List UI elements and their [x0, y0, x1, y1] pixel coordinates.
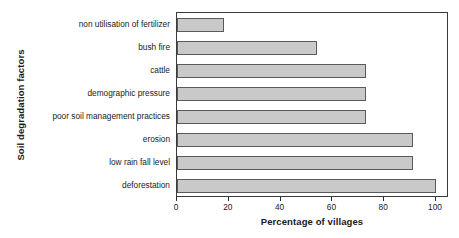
category-label: demographic pressure — [20, 88, 170, 98]
category-label: bush fire — [20, 42, 170, 52]
plot-area — [176, 12, 448, 197]
category-label: non utilisation of fertilizer — [20, 19, 170, 29]
x-axis-tick — [331, 197, 332, 201]
bar — [177, 133, 413, 147]
x-axis-tick — [435, 197, 436, 201]
category-label: deforestation — [20, 180, 170, 190]
category-label: low rain fall level — [20, 157, 170, 167]
bar — [177, 110, 366, 124]
category-label: poor soil management practices — [20, 111, 170, 121]
x-axis-tick — [280, 197, 281, 201]
bar — [177, 179, 436, 193]
x-axis-tick-label: 80 — [363, 202, 403, 212]
x-axis-tick-label: 0 — [156, 202, 196, 212]
x-axis-tick — [228, 197, 229, 201]
x-axis-title: Percentage of villages — [176, 216, 448, 227]
x-axis-tick-label: 60 — [311, 202, 351, 212]
bar — [177, 18, 224, 32]
x-axis-tick-label: 40 — [260, 202, 300, 212]
x-axis-tick-label: 100 — [415, 202, 455, 212]
category-label-group: non utilisation of fertilizerbush fireca… — [20, 12, 170, 197]
bar-chart: Soil degradation factors non utilisation… — [0, 0, 459, 238]
x-axis-tick — [383, 197, 384, 201]
category-label: cattle — [20, 65, 170, 75]
bar — [177, 87, 366, 101]
bar — [177, 64, 366, 78]
bar — [177, 156, 413, 170]
x-axis-tick-label: 20 — [208, 202, 248, 212]
category-label: erosion — [20, 134, 170, 144]
x-axis-tick — [176, 197, 177, 201]
bar — [177, 41, 317, 55]
